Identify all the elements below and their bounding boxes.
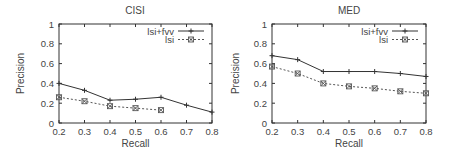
chart-figure: CISI00.20.40.60.810.20.30.40.50.60.70.8R… xyxy=(0,0,453,157)
y-tick-label: 0.2 xyxy=(41,98,54,109)
x-tick-label: 0.3 xyxy=(291,126,304,137)
series-lsi-fvv xyxy=(270,53,429,79)
x-axis-label: Recall xyxy=(122,138,150,149)
y-tick-label: 0.6 xyxy=(254,58,267,69)
x-tick-label: 0.8 xyxy=(419,126,432,137)
y-tick-label: 0.8 xyxy=(41,38,54,49)
x-tick-label: 0.2 xyxy=(265,126,278,137)
legend-label: lsi xyxy=(165,34,174,45)
y-tick-label: 0.8 xyxy=(254,38,267,49)
chart-cisi: CISI00.20.40.60.810.20.30.40.50.60.70.8R… xyxy=(15,5,219,149)
x-tick-label: 0.5 xyxy=(129,126,142,137)
x-tick-label: 0.7 xyxy=(180,126,193,137)
y-tick-label: 0.6 xyxy=(41,58,54,69)
x-tick-label: 0.4 xyxy=(103,126,116,137)
legend-item: lsi+fvv xyxy=(361,26,418,37)
x-tick-label: 0.6 xyxy=(154,126,167,137)
x-tick-label: 0.2 xyxy=(52,126,65,137)
chart-title: MED xyxy=(338,5,360,16)
chart-title: CISI xyxy=(125,5,144,16)
x-tick-label: 0.4 xyxy=(317,126,330,137)
series-lsi xyxy=(57,95,164,113)
y-tick-label: 0.2 xyxy=(254,98,267,109)
x-tick-label: 0.6 xyxy=(368,126,381,137)
y-tick-label: 0.4 xyxy=(254,78,267,89)
y-axis-label: Precision xyxy=(15,53,26,94)
legend-item: lsi xyxy=(165,34,204,45)
chart-med: MED00.20.40.60.810.20.30.40.50.60.70.8Re… xyxy=(230,5,433,149)
x-tick-label: 0.5 xyxy=(342,126,355,137)
legend-item: lsi xyxy=(379,34,418,45)
y-tick-label: 0.4 xyxy=(41,78,54,89)
y-tick-label: 1 xyxy=(262,19,267,30)
y-tick-label: 1 xyxy=(49,19,54,30)
series-lsi xyxy=(270,64,429,96)
y-axis-label: Precision xyxy=(230,53,241,94)
series-lsi-fvv xyxy=(57,81,215,115)
x-tick-label: 0.7 xyxy=(394,126,407,137)
x-tick-label: 0.8 xyxy=(205,126,218,137)
legend-item: lsi+fvv xyxy=(147,26,204,37)
x-axis-label: Recall xyxy=(335,138,363,149)
legend-label: lsi xyxy=(379,34,388,45)
x-tick-label: 0.3 xyxy=(78,126,91,137)
